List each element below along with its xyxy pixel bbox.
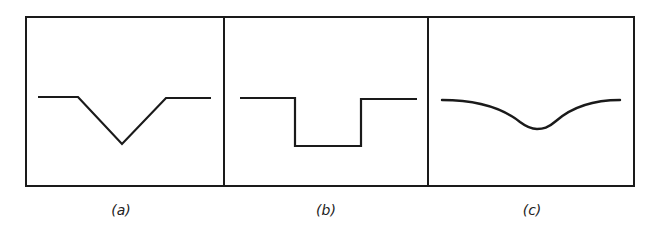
v-notch-profile bbox=[38, 97, 211, 144]
panel-c-label: (c) bbox=[502, 202, 562, 218]
panel-b-label: (b) bbox=[296, 202, 356, 218]
panel-c bbox=[442, 100, 620, 129]
profile-diagram bbox=[0, 0, 656, 232]
rectangular-notch-profile bbox=[240, 98, 417, 146]
smooth-dip-profile bbox=[442, 100, 620, 129]
outer-frame bbox=[26, 17, 634, 186]
panel-a-label: (a) bbox=[91, 202, 151, 218]
panel-a bbox=[38, 97, 211, 144]
panel-b bbox=[240, 98, 417, 146]
